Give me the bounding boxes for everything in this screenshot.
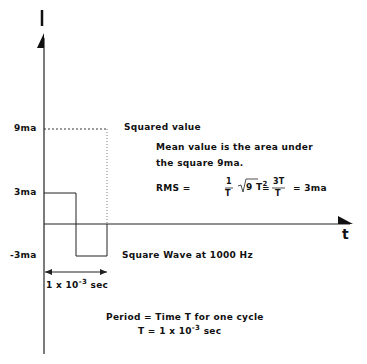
x-axis-arrow-icon [338,216,353,224]
frac2-den: T [275,189,281,198]
y-tick-neg3ma: -3ma [10,250,37,260]
mean-line-1: Mean value is the area under [156,142,313,152]
arrow-left-icon [45,269,52,275]
diagram-canvas [0,0,367,364]
rms-prefix: RMS = [156,183,191,193]
frac1-den: T [225,189,231,198]
arrow-right-icon [100,269,107,275]
frac2-num: 3T [273,177,285,186]
period-width-label: 1 x 10-3 sec [46,280,108,290]
mean-line-2: the square 9ma. [156,158,244,168]
y-axis-arrow-icon [37,33,44,48]
period-line-2: T = 1 x 10-3 sec [138,326,221,336]
y-tick-3ma: 3ma [14,187,37,197]
square-wave-label: Square Wave at 1000 Hz [122,250,253,260]
y-tick-9ma: 9ma [14,123,37,133]
rms-result: = 3ma [293,183,327,193]
y-axis-label: I [39,9,40,10]
squared-value-label: Squared value [124,122,201,132]
x-axis-label: t [342,226,349,242]
frac1-num: 1 [226,177,232,186]
period-line-1: Period = Time T for one cycle [106,312,264,322]
equals-sign: = [262,183,270,193]
